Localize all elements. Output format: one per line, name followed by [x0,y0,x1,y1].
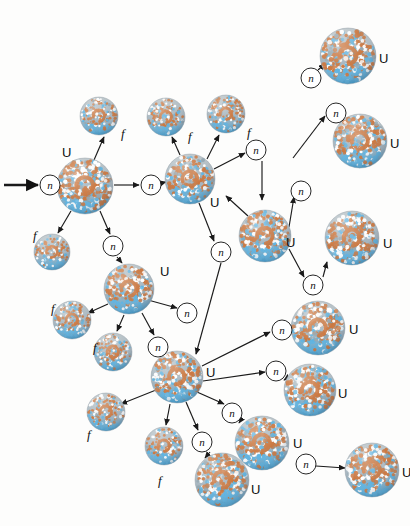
neutron-marker: n [222,403,242,423]
reaction-arrow [117,257,122,263]
uranium-label: U [206,366,215,379]
neutron-marker: n [211,242,231,262]
fission-fragment-nucleus [147,98,185,136]
fragment-label: f [33,229,37,242]
reaction-arrow [148,300,177,308]
neutron-marker: n [103,236,123,256]
fission-fragment-nucleus [34,234,70,270]
reaction-arrow [172,137,180,155]
reaction-arrow [207,135,219,159]
neutron-label: n [298,185,304,197]
fission-fragment-nucleus [87,393,125,431]
reaction-arrow [186,402,198,430]
fragment-label: f [121,127,125,140]
neutron-label: n [199,436,205,448]
neutron-label: n [310,279,316,291]
uranium-nucleus [165,154,215,204]
fission-fragment-nucleus [207,95,245,133]
uranium-label: U [383,237,392,250]
reaction-arrow [100,211,110,234]
neutron-marker: n [296,454,316,474]
fragment-label: f [87,428,91,441]
reaction-arrow [94,137,104,160]
reaction-arrow [293,116,325,158]
uranium-nucleus [104,264,154,314]
neutron-marker: n [303,275,323,295]
neutron-marker: n [40,175,60,195]
uranium-label: U [160,265,169,278]
uranium-nucleus [345,443,399,497]
fragment-label: f [247,126,251,139]
fission-fragment-nucleus [53,301,91,339]
uranium-nucleus [291,301,345,355]
uranium-nucleus [151,351,203,403]
uranium-nucleus [195,453,249,507]
fragment-label: f [51,302,55,315]
figure-canvas: nnnnnnnnnnnnnnnn [0,0,410,526]
reaction-arrow [197,392,224,404]
neutron-marker: n [301,68,321,88]
neutron-label: n [303,458,309,470]
uranium-nucleus [235,416,289,470]
reaction-arrow [88,304,108,313]
uranium-label: U [251,483,260,496]
fragment-label: f [93,341,97,354]
neutron-marker: n [326,103,346,123]
reaction-arrow [289,249,304,277]
uranium-label: U [286,236,295,249]
neutron-marker: n [291,181,311,201]
reaction-arrow [142,313,154,335]
uranium-label: U [349,323,358,336]
uranium-nucleus [320,28,376,84]
neutron-label: n [47,179,53,191]
neutron-marker: n [192,432,212,452]
fragment-label: f [158,474,162,487]
neutron-label: n [308,72,314,84]
reaction-arrow [58,211,71,233]
uranium-label: U [210,196,219,209]
neutron-marker: n [177,303,197,323]
uranium-label: U [62,146,71,159]
reaction-arrow [202,332,270,366]
neutron-marker: n [141,175,161,195]
fission-fragment-nucleus [94,333,132,371]
uranium-nucleus [57,158,113,214]
neutron-label: n [333,107,339,119]
neutron-marker: n [272,320,292,340]
reaction-arrow [121,390,156,404]
uranium-label: U [402,466,410,479]
uranium-nucleus [239,210,291,262]
neutron-marker: n [266,361,286,381]
uranium-label: U [293,437,302,450]
uranium-nucleus [284,364,336,416]
fission-fragment-nucleus [145,427,183,465]
uranium-label: U [338,387,347,400]
reaction-arrow [323,262,327,277]
fragment-label: f [188,130,192,143]
uranium-label: U [390,137,399,150]
reaction-arrow [289,197,294,227]
neutron-label: n [279,324,285,336]
neutron-marker: n [246,140,266,160]
reaction-arrow [196,263,221,354]
fission-chain-reaction-figure: nnnnnnnnnnnnnnnn UffUffUUUUUUffUffUUUU [0,0,410,526]
reaction-arrow [166,404,170,425]
neutron-label: n [110,240,116,252]
neutron-label: n [184,307,190,319]
neutron-label: n [148,179,154,191]
neutron-label: n [229,407,235,419]
fission-fragment-nucleus [80,97,118,135]
reaction-arrow [316,466,345,468]
uranium-nucleus [325,211,379,265]
reaction-arrow [226,196,248,216]
uranium-label: U [379,52,388,65]
reaction-arrow [117,315,124,331]
neutron-label: n [155,341,161,353]
neutron-label: n [218,246,224,258]
neutron-label: n [253,144,259,156]
neutron-label: n [273,365,279,377]
reaction-arrow [214,153,245,169]
neutron-marker: n [148,337,168,357]
